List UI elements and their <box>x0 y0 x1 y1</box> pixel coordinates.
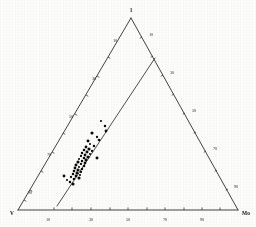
data-point <box>87 140 90 143</box>
data-point <box>81 152 83 154</box>
data-point <box>84 162 87 165</box>
vertex-label-bottom-left: V <box>10 210 14 216</box>
left-tick-1 <box>97 76 99 77</box>
data-point <box>86 151 89 154</box>
scatter-points <box>63 120 108 186</box>
data-point <box>83 149 86 152</box>
triangle-outline <box>18 18 238 210</box>
data-point <box>96 136 98 138</box>
data-point <box>63 175 66 178</box>
data-point <box>87 147 90 150</box>
left-tick-0 <box>108 57 110 58</box>
left-tick-2 <box>86 95 88 96</box>
data-point <box>98 139 101 142</box>
bottom-tick-label-8: 90 <box>200 217 204 222</box>
left-tick-8 <box>24 200 26 201</box>
data-point <box>69 181 71 183</box>
data-point <box>72 173 74 175</box>
data-point <box>74 167 77 170</box>
left-tick-5 <box>52 152 54 153</box>
right-tick-label-2: 30 <box>170 70 174 75</box>
data-point <box>76 168 79 171</box>
vertex-label-bottom-right: Mo <box>242 210 250 216</box>
data-point <box>89 143 91 145</box>
data-point <box>81 168 83 170</box>
vertex-label-apex: 1 <box>130 7 133 13</box>
triangle-edge-1 <box>131 18 238 210</box>
ternary-diagram-figure: 1VMo103050709010305070901030507090 <box>0 0 256 227</box>
data-point <box>83 165 86 168</box>
data-point <box>80 155 82 157</box>
data-point <box>73 178 76 181</box>
data-point <box>105 130 108 133</box>
data-point <box>93 145 95 147</box>
right-tick-label-6: 70 <box>213 146 217 151</box>
data-point <box>70 176 72 178</box>
data-point <box>75 175 78 178</box>
plot-canvas <box>0 0 256 227</box>
left-tick-label-6: 70 <box>47 152 51 157</box>
right-tick-label-8: 90 <box>234 184 238 189</box>
data-point <box>90 131 93 134</box>
data-point <box>96 157 99 160</box>
data-point <box>79 174 81 176</box>
data-point <box>85 146 88 149</box>
triangle-edge-0 <box>18 18 131 210</box>
data-point <box>76 172 79 175</box>
bottom-tick-label-4: 50 <box>126 217 130 222</box>
left-tick-label-8: 90 <box>28 190 32 195</box>
data-point <box>91 150 93 152</box>
data-point <box>78 158 80 160</box>
data-point <box>83 157 86 160</box>
bottom-tick-label-0: 10 <box>46 217 50 222</box>
left-tick-6 <box>41 171 43 172</box>
data-point <box>100 120 102 122</box>
left-tick-3 <box>75 114 77 115</box>
data-point <box>85 159 88 162</box>
data-point <box>80 171 82 173</box>
data-point <box>76 160 79 163</box>
data-point <box>66 179 68 181</box>
right-tick-label-0: 10 <box>149 32 153 37</box>
data-point <box>89 153 91 155</box>
data-point <box>80 163 82 165</box>
data-point <box>81 160 83 162</box>
right-tick-label-4: 50 <box>192 108 196 113</box>
left-tick-label-0: 10 <box>113 38 117 43</box>
data-point <box>75 164 78 167</box>
bottom-tick-label-6: 70 <box>163 217 167 222</box>
left-tick-label-2: 30 <box>92 76 96 81</box>
bottom-tick-label-2: 30 <box>89 217 93 222</box>
left-tick-label-4: 50 <box>69 114 73 119</box>
data-point <box>86 155 89 158</box>
tick-marks <box>24 37 228 210</box>
data-point <box>77 176 80 179</box>
data-point <box>104 125 106 127</box>
data-point <box>71 182 74 185</box>
data-point <box>78 166 80 168</box>
data-point <box>73 170 76 173</box>
data-point <box>84 154 87 157</box>
